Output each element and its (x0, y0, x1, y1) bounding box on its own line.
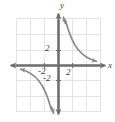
y-axis-label: y (60, 1, 64, 10)
curve-branch-quadrant-three-lower-arrow (52, 107, 54, 113)
x-tick-label-positive-two: 2 (66, 68, 71, 77)
curve-branch-quadrant-one (66, 22, 97, 62)
axes (11, 14, 106, 115)
y-tick-label-negative-two: -2 (43, 74, 51, 83)
y-tick-label-positive-two: 2 (45, 44, 50, 53)
x-axis-label: x (108, 61, 112, 70)
coordinate-plane (0, 0, 115, 122)
graph-figure: y x 2 -2 2 -2 (0, 0, 115, 122)
